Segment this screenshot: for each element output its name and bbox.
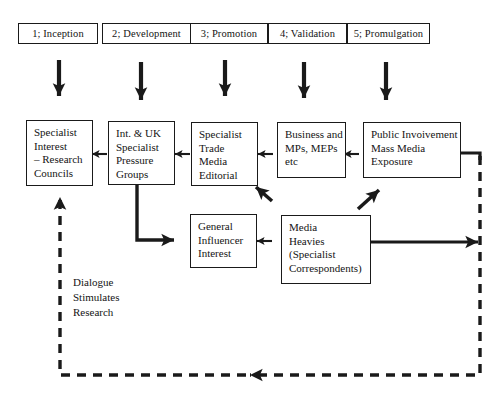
node-line: Specialist <box>116 141 168 155</box>
node-line: Trade <box>199 142 251 156</box>
pressure-groups-to-influencer-connector <box>137 184 174 240</box>
node-public-involvement[interactable]: Public Invoivement Mass Media Exposure <box>363 122 461 178</box>
annotation-line: Stimulates <box>73 290 119 305</box>
heavies-to-public-involvement-arrow <box>358 190 379 209</box>
stage-label-1[interactable]: 1; Inception <box>18 23 98 44</box>
heavies-to-trade-media-arrow <box>256 187 272 201</box>
node-trade-media[interactable]: Specialist Trade Media Editorial <box>191 122 258 186</box>
node-line: Media <box>289 221 364 235</box>
stage-label-4[interactable]: 4; Validation <box>268 23 347 44</box>
annotation-line: Dialogue <box>73 275 119 290</box>
node-line: Correspondents) <box>289 262 364 276</box>
public-involvement-to-loop-stub <box>461 153 480 160</box>
stage-label-2[interactable]: 2; Development <box>102 23 191 44</box>
node-line: Exposure <box>371 155 454 169</box>
connector-layer <box>0 0 504 406</box>
node-pressure-groups[interactable]: Int. & UK Specialist Pressure Groups <box>108 121 175 185</box>
node-line: Media <box>199 155 251 169</box>
node-line: Pressure <box>116 154 168 168</box>
node-line: General <box>198 220 250 234</box>
node-line: Influencer <box>198 234 250 248</box>
node-line: Groups <box>116 168 168 182</box>
node-line: Specialist <box>199 128 251 142</box>
node-business-mps[interactable]: Business and MPs, MEPs etc <box>277 122 346 178</box>
node-line: Interest <box>34 140 86 154</box>
diagram-canvas: 1; Inception 2; Development 3; Promotion… <box>0 0 504 406</box>
node-line: Business and <box>285 128 339 142</box>
feedback-loop-annotation: Dialogue Stimulates Research <box>73 275 119 320</box>
stage-label-5[interactable]: 5; Promulgation <box>347 23 430 44</box>
node-line: (Specialist <box>289 248 364 262</box>
annotation-line: Research <box>73 305 119 320</box>
node-line: etc <box>285 155 339 169</box>
node-line: Mass Media <box>371 142 454 156</box>
node-general-influencer[interactable]: General Influencer Interest <box>190 214 257 268</box>
stage-label-3[interactable]: 3; Promotion <box>190 23 268 44</box>
node-line: Councils <box>34 167 86 181</box>
node-line: Editorial <box>199 169 251 183</box>
node-line: Interest <box>198 247 250 261</box>
node-line: Public Invoivement <box>371 128 454 142</box>
node-specialist-interest[interactable]: Specialist Interest – Research Councils <box>26 120 93 186</box>
node-line: MPs, MEPs <box>285 142 339 156</box>
node-line: Specialist <box>34 126 86 140</box>
node-line: Heavies <box>289 235 364 249</box>
node-line: Int. & UK <box>116 127 168 141</box>
stage-drop-arrows <box>59 60 386 100</box>
node-line: – Research <box>34 153 86 167</box>
node-media-heavies[interactable]: Media Heavies (Specialist Correspondents… <box>281 215 371 284</box>
